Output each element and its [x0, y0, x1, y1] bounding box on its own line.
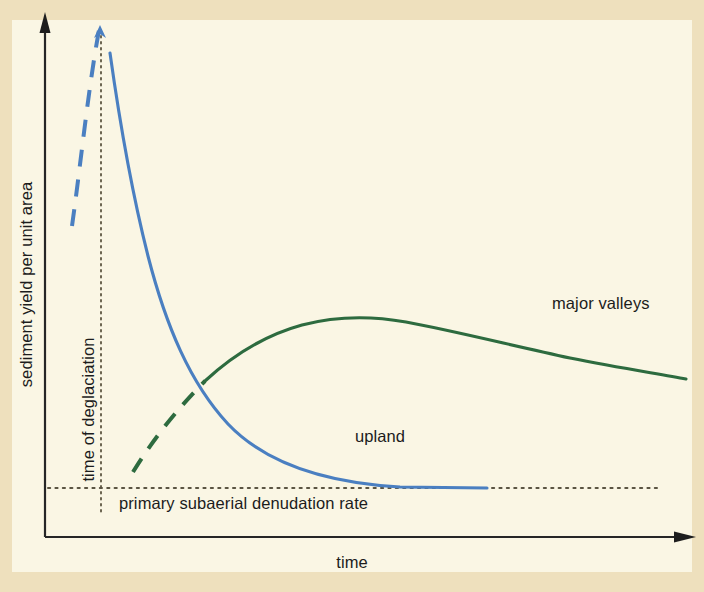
x-axis-label: time: [0, 553, 704, 572]
valleys-curve-solid: [205, 318, 686, 381]
upland-curve-dashed-rise: [72, 30, 99, 226]
y-axis: [40, 12, 51, 537]
figure-container: sediment yield per unit area time time o…: [0, 0, 704, 592]
y-axis-arrowhead: [40, 12, 51, 33]
x-axis-arrowhead: [674, 532, 696, 543]
upland-series-label: upland: [355, 427, 405, 446]
y-axis-label: sediment yield per unit area: [17, 155, 36, 415]
denudation-rate-annotation-label: primary subaerial denudation rate: [119, 494, 368, 513]
valleys-curve-dashed-rise: [133, 381, 205, 472]
deglaciation-annotation-label: time of deglaciation: [79, 300, 98, 520]
x-axis: [45, 532, 696, 543]
major-valleys-series-label: major valleys: [552, 294, 650, 313]
